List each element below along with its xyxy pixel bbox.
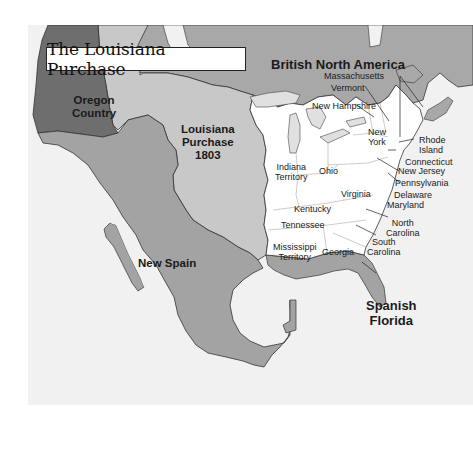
label-virginia: Virginia: [341, 189, 371, 199]
label-massachusetts: Massachusetts: [324, 71, 384, 81]
label-florida-line1: Florida: [366, 313, 417, 328]
label-mississippi-line1: Mississippi: [273, 242, 317, 252]
label-new-york-line2: York: [368, 137, 386, 147]
label-indiana-territory: Indiana Territory: [275, 162, 308, 182]
label-rhode-island: Rhode Island: [419, 135, 446, 155]
label-british-north-america: British North America: [271, 57, 405, 72]
label-delaware: Delaware: [394, 190, 432, 200]
label-vermont: Vermont: [331, 83, 365, 93]
label-georgia: Georgia: [322, 247, 354, 257]
label-indiana-line2: Territory: [275, 172, 308, 182]
label-louisiana-purchase: Louisiana Purchase 1803: [181, 123, 235, 162]
label-louisiana-line3: 1803: [181, 149, 235, 162]
map-title: The Louisiana Purchase: [47, 39, 245, 79]
label-maryland: Maryland: [387, 200, 424, 210]
label-nc-line1: North: [386, 218, 420, 228]
label-mississippi-territory: Mississippi Territory: [273, 242, 317, 262]
label-rhode-island-line2: Island: [419, 145, 446, 155]
label-oregon-line2: Country: [72, 107, 116, 120]
label-spanish-florida: Spanish Florida: [366, 298, 417, 328]
label-sc-line2: Carolina: [367, 247, 401, 257]
label-new-york: New York: [368, 127, 386, 147]
label-spanish-line1: Spanish: [366, 298, 417, 313]
map-title-box: The Louisiana Purchase: [46, 47, 246, 71]
label-oregon-line1: Oregon: [72, 94, 116, 107]
label-new-spain: New Spain: [138, 257, 196, 270]
label-rhode-island-line1: Rhode: [419, 135, 446, 145]
label-mississippi-line2: Territory: [273, 252, 317, 262]
label-new-york-line1: New: [368, 127, 386, 137]
label-sc-line1: South: [367, 237, 401, 247]
label-louisiana-line1: Louisiana: [181, 123, 235, 136]
map-shapes: [28, 25, 473, 405]
label-kentucky: Kentucky: [294, 204, 331, 214]
label-north-carolina: North Carolina: [386, 218, 420, 238]
label-indiana-line1: Indiana: [275, 162, 308, 172]
label-ohio: Ohio: [319, 166, 338, 176]
label-pennsylvania: Pennsylvania: [395, 178, 449, 188]
label-oregon-country: Oregon Country: [72, 94, 116, 120]
label-louisiana-line2: Purchase: [181, 136, 235, 149]
map: British North America Oregon Country Lou…: [28, 25, 473, 405]
label-south-carolina: South Carolina: [367, 237, 401, 257]
label-new-jersey: New Jersey: [398, 166, 445, 176]
label-new-hampshire: New Hampshire: [312, 101, 376, 111]
label-tennessee: Tennessee: [281, 220, 325, 230]
